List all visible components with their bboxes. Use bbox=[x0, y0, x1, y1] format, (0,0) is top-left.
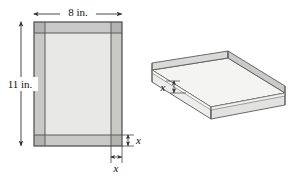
flap-bottom bbox=[34, 135, 122, 146]
corner-cut-horizontal-label: x bbox=[113, 162, 119, 174]
box-height-label: x bbox=[160, 81, 166, 93]
box-3d-diagram: x bbox=[152, 51, 285, 119]
corner-square-bottom-left bbox=[34, 135, 45, 146]
flap-top bbox=[34, 22, 122, 33]
width-dimension: 8 in. bbox=[34, 6, 122, 19]
flat-sheet-diagram: 8 in. 11 in. x x bbox=[2, 6, 141, 174]
corner-cut-vertical-label: x bbox=[135, 134, 141, 146]
flap-right bbox=[111, 22, 122, 146]
corner-square-top-left bbox=[34, 22, 45, 33]
sheet-inner-panel bbox=[34, 22, 122, 146]
corner-cut-vertical-dimension: x bbox=[122, 134, 141, 146]
corner-cut-horizontal-dimension: x bbox=[111, 146, 122, 174]
corner-square-bottom-right bbox=[111, 135, 122, 146]
height-dimension: 11 in. bbox=[2, 22, 38, 146]
sheet-height-label: 11 in. bbox=[8, 78, 33, 90]
geometry-figure: 8 in. 11 in. x x bbox=[0, 0, 294, 178]
sheet-width-label: 8 in. bbox=[68, 6, 88, 18]
figure-container: 8 in. 11 in. x x bbox=[0, 0, 294, 178]
corner-square-top-right bbox=[111, 22, 122, 33]
